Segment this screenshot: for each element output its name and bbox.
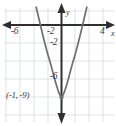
x-tick-label-neg6: -6 <box>11 27 18 37</box>
y-tick-label-neg2: -2 <box>50 38 57 48</box>
x-axis-name: x <box>111 30 114 38</box>
x-axis-left-arrow <box>2 21 11 29</box>
y-axis <box>58 3 66 124</box>
x-axis-right-arrow <box>106 21 115 29</box>
y-axis-top-arrow <box>58 3 66 13</box>
y-axis-name: y <box>66 9 69 17</box>
x-tick-label-neg2: -2 <box>47 27 54 37</box>
parabola-plot <box>0 0 116 126</box>
y-tick-label-neg6: -6 <box>50 72 57 82</box>
y-axis-bottom-arrow <box>58 113 66 124</box>
x-tick-label-4: 4 <box>100 27 104 37</box>
graph-figure: -6 -2 4 x -2 -6 y (-1, -9) <box>0 0 116 126</box>
vertex-annotation-label: (-1, -9) <box>6 91 29 100</box>
vertex-point <box>59 95 63 99</box>
x-axis <box>2 21 115 29</box>
